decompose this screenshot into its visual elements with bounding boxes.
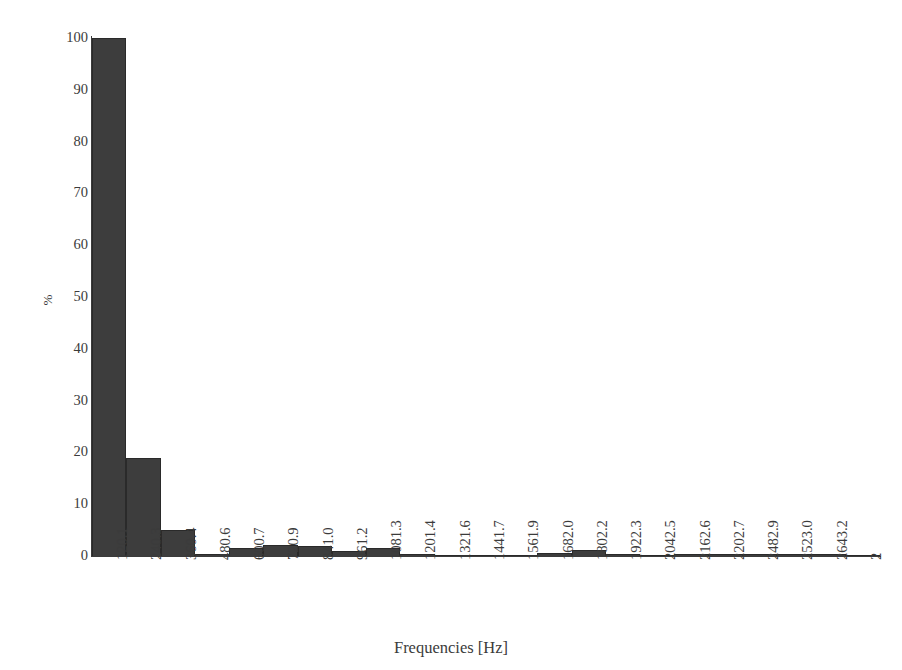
y-tick-label: 0	[54, 548, 88, 563]
x-tick-label: 1802.2	[595, 490, 610, 560]
y-tick-label: 90	[54, 82, 88, 97]
x-tick-label: 600.7	[252, 490, 267, 560]
x-tick-label: 841.0	[321, 490, 336, 560]
histogram-figure: % 0102030405060708090100 120.1240.3360.4…	[0, 0, 902, 670]
x-tick-label: 120.1	[115, 490, 130, 560]
x-tick-label: 2162.6	[698, 490, 713, 560]
x-tick-label: 2042.5	[663, 490, 678, 560]
x-tick-label: 961.2	[355, 490, 370, 560]
x-tick-label: 1561.9	[526, 490, 541, 560]
x-tick-label: 480.6	[218, 490, 233, 560]
x-tick-label: 1321.6	[458, 490, 473, 560]
x-tick-label: 1682.0	[561, 490, 576, 560]
y-tick-label: 70	[54, 185, 88, 200]
x-tick-label: 2643.2	[835, 490, 850, 560]
x-tick-label: 1922.3	[629, 490, 644, 560]
y-tick-label: 30	[54, 393, 88, 408]
histogram-bar	[92, 38, 126, 556]
y-tick-label: 60	[54, 237, 88, 252]
x-tick-label: 2482.9	[766, 490, 781, 560]
x-axis-tick-labels: 120.1240.3360.4480.6600.7720.9841.0961.2…	[92, 560, 880, 630]
x-tick-label: 1441.7	[492, 490, 507, 560]
y-tick-label: 80	[54, 134, 88, 149]
plot-area	[92, 38, 880, 556]
x-tick-label: 2	[869, 490, 884, 560]
y-tick-label: 100	[54, 30, 88, 45]
x-tick-label: 1201.4	[423, 490, 438, 560]
x-tick-label: 360.4	[184, 490, 199, 560]
x-tick-label: 240.3	[149, 490, 164, 560]
x-tick-label: 2523.0	[800, 490, 815, 560]
y-axis-tick-labels: 0102030405060708090100	[54, 0, 88, 670]
x-tick-label: 720.9	[286, 490, 301, 560]
y-tick-label: 50	[54, 289, 88, 304]
x-tick-label: 1081.3	[389, 490, 404, 560]
x-axis-line	[91, 556, 881, 557]
x-axis-title: Frequencies [Hz]	[0, 638, 902, 658]
y-tick-label: 10	[54, 496, 88, 511]
x-tick-label: 2202.7	[732, 490, 747, 560]
y-tick-label: 20	[54, 444, 88, 459]
y-tick-label: 40	[54, 341, 88, 356]
